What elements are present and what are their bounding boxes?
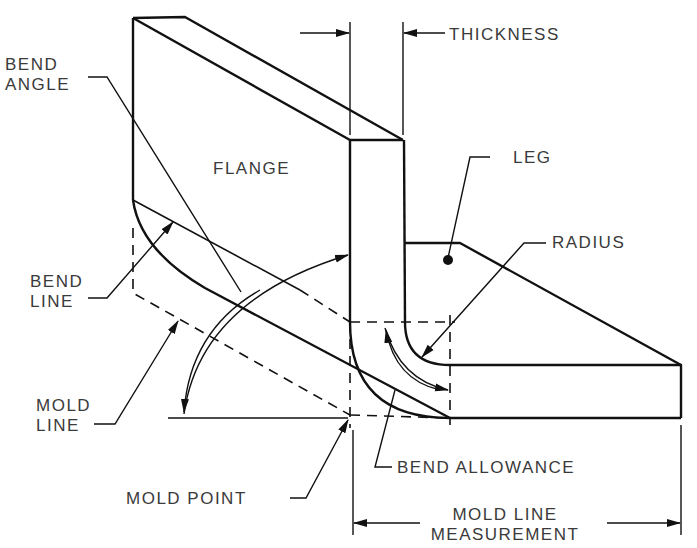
part-outline	[133, 17, 681, 418]
label-mold-line: MOLD LINE	[36, 396, 91, 436]
label-flange: FLANGE	[213, 159, 290, 179]
label-leg: LEG	[513, 148, 552, 168]
label-mold-line-measurement-line1: MOLD LINE	[420, 505, 590, 525]
label-bend-line: BEND LINE	[30, 272, 83, 312]
leader-lines	[88, 22, 681, 535]
label-bend-angle-line1: BEND	[5, 55, 70, 75]
label-radius: RADIUS	[552, 233, 625, 253]
label-bend-line-line2: LINE	[30, 292, 83, 312]
bend-diagram: BEND ANGLE FLANGE THICKNESS LEG BEND LIN…	[0, 0, 697, 548]
leg-dot-marker	[443, 255, 453, 265]
label-bend-line-line1: BEND	[30, 272, 83, 292]
label-mold-line-line1: MOLD	[36, 396, 91, 416]
label-bend-allowance: BEND ALLOWANCE	[397, 458, 575, 478]
label-bend-angle-line2: ANGLE	[5, 75, 70, 95]
diagram-drawing	[0, 0, 697, 548]
label-bend-angle: BEND ANGLE	[5, 55, 70, 95]
label-mold-line-measurement-line2: MEASUREMENT	[420, 525, 590, 545]
label-mold-line-measurement: MOLD LINE MEASUREMENT	[420, 505, 590, 545]
label-mold-line-line2: LINE	[36, 416, 91, 436]
label-mold-point: MOLD POINT	[126, 489, 247, 509]
label-thickness: THICKNESS	[449, 25, 560, 45]
